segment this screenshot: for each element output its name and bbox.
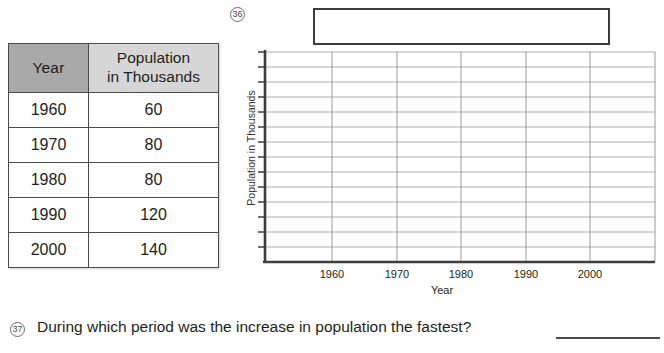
cell-year: 2000 xyxy=(9,233,89,268)
cell-population: 80 xyxy=(89,163,219,198)
cell-population: 60 xyxy=(89,93,219,128)
blank-graph-grid: Population in Thousands xyxy=(222,46,662,296)
table-header-row: Year Population in Thousands xyxy=(9,44,219,93)
question-36-number: 36 xyxy=(230,7,245,22)
table-row: 2000 140 xyxy=(9,233,219,268)
table-row: 1970 80 xyxy=(9,128,219,163)
cell-year: 1980 xyxy=(9,163,89,198)
question-37-number: 37 xyxy=(10,322,25,337)
population-data-table: Year Population in Thousands 1960 60 197… xyxy=(8,43,219,268)
cell-year: 1990 xyxy=(9,198,89,233)
table-header-population-line2: in Thousands xyxy=(89,68,218,87)
table-body: 1960 60 1970 80 1980 80 1990 120 2000 14… xyxy=(9,93,219,268)
cell-year: 1970 xyxy=(9,128,89,163)
table-row: 1990 120 xyxy=(9,198,219,233)
table-row: 1960 60 xyxy=(9,93,219,128)
chart-title-input-box[interactable] xyxy=(313,8,610,45)
question-37-text: During which period was the increase in … xyxy=(37,318,471,336)
x-tick-1990: 1990 xyxy=(506,268,546,280)
table-header-year: Year xyxy=(9,44,89,93)
table-row: 1980 80 xyxy=(9,163,219,198)
table-header-population: Population in Thousands xyxy=(89,44,219,93)
x-axis-label: Year xyxy=(222,284,662,296)
question-37-answer-line[interactable] xyxy=(556,337,660,339)
cell-population: 80 xyxy=(89,128,219,163)
x-tick-1980: 1980 xyxy=(441,268,481,280)
x-tick-2000: 2000 xyxy=(570,268,610,280)
x-tick-1960: 1960 xyxy=(312,268,352,280)
cell-population: 120 xyxy=(89,198,219,233)
cell-population: 140 xyxy=(89,233,219,268)
table-header-population-line1: Population xyxy=(117,49,190,66)
x-tick-1970: 1970 xyxy=(377,268,417,280)
grid-svg xyxy=(222,46,662,271)
cell-year: 1960 xyxy=(9,93,89,128)
